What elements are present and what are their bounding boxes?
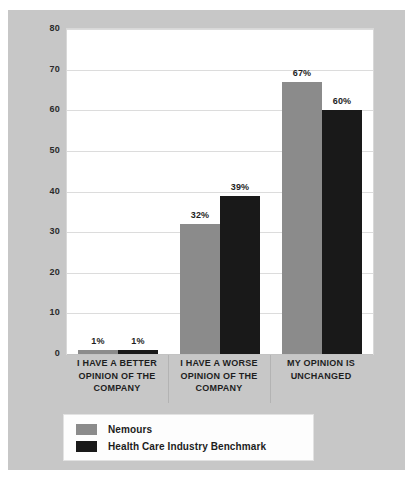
gridline-60 [67, 110, 373, 111]
gridline-50 [67, 151, 373, 152]
gridline-40 [67, 192, 373, 193]
y-axis-tick-50: 50 [14, 145, 60, 154]
category-label-line: OPINION OF THE [168, 370, 270, 383]
category-label-line: UNCHANGED [270, 370, 372, 383]
category-label-line: I HAVE A BETTER [66, 357, 168, 370]
gridline-20 [67, 273, 373, 274]
y-axis-tick-20: 20 [14, 267, 60, 276]
y-axis: 01020304050607080 [8, 28, 60, 353]
x-axis-category-label: MY OPINION ISUNCHANGED [270, 357, 372, 382]
category-label-line: COMPANY [168, 382, 270, 395]
category-label-line: COMPANY [66, 382, 168, 395]
x-axis: I HAVE A BETTEROPINION OF THECOMPANYI HA… [66, 355, 374, 407]
gridline-30 [67, 232, 373, 233]
plot-area [66, 28, 374, 355]
legend-item-benchmark: Health Care Industry Benchmark [76, 439, 266, 453]
category-label-line: I HAVE A WORSE [168, 357, 270, 370]
legend-label-nemours: Nemours [108, 424, 152, 435]
legend-swatch-benchmark [76, 441, 97, 452]
y-axis-tick-40: 40 [14, 186, 60, 195]
gridline-10 [67, 313, 373, 314]
x-axis-category-label: I HAVE A BETTEROPINION OF THECOMPANY [66, 357, 168, 395]
chart-legend: Nemours Health Care Industry Benchmark [63, 414, 314, 461]
y-axis-tick-10: 10 [14, 308, 60, 317]
x-axis-category-label: I HAVE A WORSEOPINION OF THECOMPANY [168, 357, 270, 395]
y-axis-tick-0: 0 [14, 349, 60, 358]
y-axis-tick-30: 30 [14, 227, 60, 236]
gridline-80 [67, 29, 373, 30]
category-separator [270, 355, 271, 403]
category-label-line: OPINION OF THE [66, 370, 168, 383]
legend-item-nemours: Nemours [76, 422, 152, 436]
category-separator [168, 355, 169, 403]
legend-swatch-nemours [76, 424, 97, 435]
y-axis-tick-80: 80 [14, 24, 60, 33]
legend-label-benchmark: Health Care Industry Benchmark [108, 441, 266, 452]
y-axis-tick-70: 70 [14, 64, 60, 73]
y-axis-tick-60: 60 [14, 105, 60, 114]
category-label-line: MY OPINION IS [270, 357, 372, 370]
gridline-70 [67, 70, 373, 71]
chart-panel: 01020304050607080 1%1%32%39%67%60% I HAV… [8, 10, 405, 470]
